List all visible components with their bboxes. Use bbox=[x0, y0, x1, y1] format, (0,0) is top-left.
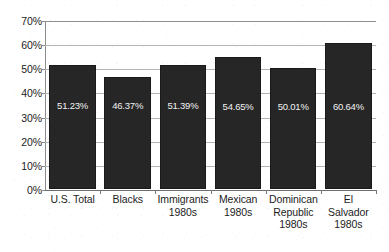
y-tick-mark bbox=[41, 93, 45, 94]
bar-value-label: 60.64% bbox=[326, 102, 371, 112]
y-tick-mark bbox=[41, 118, 45, 119]
bar-value-label: 51.39% bbox=[161, 101, 206, 111]
y-tick-label: 10% bbox=[2, 161, 42, 172]
x-category-line: 1980s bbox=[211, 206, 266, 219]
bar: 50.01% bbox=[270, 68, 317, 189]
plot-area: 51.23%46.37%51.39%54.65%50.01%60.64% bbox=[45, 21, 376, 190]
x-tick-mark bbox=[376, 190, 377, 194]
x-category-label: Blacks bbox=[100, 193, 155, 206]
bar-value-label: 54.65% bbox=[216, 102, 261, 112]
x-category-line: Blacks bbox=[100, 193, 155, 206]
y-axis: 70%60%50%40%30%20%10%0% bbox=[0, 0, 42, 252]
x-category-label: Immigrants1980s bbox=[155, 193, 210, 218]
x-category-label: DominicanRepublic1980s bbox=[266, 193, 321, 231]
bar-value-label: 51.23% bbox=[50, 101, 95, 111]
x-category-line: 1980s bbox=[155, 206, 210, 219]
x-category-line: El bbox=[321, 193, 376, 206]
bar: 60.64% bbox=[325, 43, 372, 189]
bar: 51.39% bbox=[160, 65, 207, 189]
bar: 46.37% bbox=[104, 77, 151, 189]
x-category-label: ElSalvador1980s bbox=[321, 193, 376, 231]
y-tick-mark bbox=[41, 21, 45, 22]
y-tick-label: 40% bbox=[2, 88, 42, 99]
x-category-line: Salvador bbox=[321, 206, 376, 219]
y-tick-label: 70% bbox=[2, 16, 42, 27]
y-tick-label: 30% bbox=[2, 113, 42, 124]
y-tick-mark bbox=[41, 190, 45, 191]
x-axis: U.S. TotalBlacksImmigrants1980sMexican19… bbox=[45, 193, 376, 252]
bar: 54.65% bbox=[215, 57, 262, 189]
y-tick-label: 50% bbox=[2, 64, 42, 75]
y-tick-label: 0% bbox=[2, 185, 42, 196]
x-category-label: U.S. Total bbox=[45, 193, 100, 206]
x-category-line: 1980s bbox=[321, 218, 376, 231]
y-tick-mark bbox=[41, 166, 45, 167]
x-category-line: U.S. Total bbox=[45, 193, 100, 206]
gridline bbox=[45, 21, 376, 22]
x-category-line: Mexican bbox=[211, 193, 266, 206]
bar-value-label: 50.01% bbox=[271, 102, 316, 112]
y-tick-mark bbox=[41, 142, 45, 143]
bar-chart: 70%60%50%40%30%20%10%0% 51.23%46.37%51.3… bbox=[0, 0, 389, 252]
x-category-line: 1980s bbox=[266, 218, 321, 231]
bar: 51.23% bbox=[49, 65, 96, 189]
x-category-line: Immigrants bbox=[155, 193, 210, 206]
x-category-line: Dominican bbox=[266, 193, 321, 206]
x-category-line: Republic bbox=[266, 206, 321, 219]
y-tick-label: 60% bbox=[2, 40, 42, 51]
x-category-label: Mexican1980s bbox=[211, 193, 266, 218]
y-tick-label: 20% bbox=[2, 137, 42, 148]
y-tick-mark bbox=[41, 45, 45, 46]
bar-value-label: 46.37% bbox=[105, 101, 150, 111]
y-tick-mark bbox=[41, 69, 45, 70]
